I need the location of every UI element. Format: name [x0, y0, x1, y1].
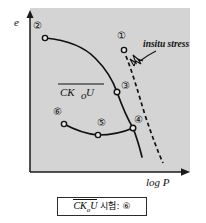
- caption-test-tail: U: [90, 200, 97, 211]
- marker-point-4: [130, 125, 136, 131]
- marker-point-6: [61, 121, 66, 126]
- point-label-5: ⑤: [97, 117, 106, 128]
- caption-text: CKoU 시험: ⑥: [73, 199, 130, 214]
- point-label-2: ②: [33, 20, 42, 31]
- plot-background: [30, 8, 190, 172]
- caption-box: CKoU 시험: ⑥: [57, 197, 147, 216]
- marker-point-1: [121, 47, 126, 52]
- void-ratio-log-pressure-chart: e log P ① ② ③ ④ ⑤ ⑥ CK: [0, 0, 206, 223]
- marker-point-5: [95, 132, 100, 137]
- caption-test-name: CKoU: [73, 199, 97, 214]
- ck0u-label-tail: U: [86, 86, 95, 98]
- point-label-1: ①: [117, 30, 126, 41]
- caption-korean-word: 시험:: [100, 202, 119, 211]
- marker-point-3: [114, 89, 120, 95]
- caption-circled-number: ⑥: [123, 202, 131, 211]
- figure-container: e log P ① ② ③ ④ ⑤ ⑥ CK: [0, 0, 206, 223]
- insitu-stress-label: insitu stress: [143, 39, 190, 49]
- caption-test-main: CK: [73, 200, 86, 211]
- point-label-4: ④: [134, 114, 143, 125]
- marker-point-2: [42, 35, 47, 40]
- x-axis-label: log P: [146, 176, 170, 188]
- y-axis-label: e: [14, 16, 19, 28]
- point-label-3: ③: [121, 80, 130, 91]
- ck0u-label-main: CK: [60, 86, 75, 98]
- point-label-6: ⑥: [53, 106, 62, 117]
